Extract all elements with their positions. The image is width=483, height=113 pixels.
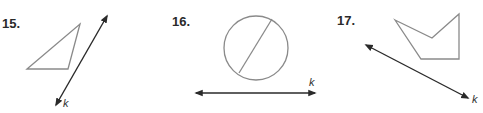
circle-chord bbox=[239, 19, 272, 73]
triangle-figure bbox=[27, 24, 80, 69]
line-label-k-16: k bbox=[309, 76, 315, 88]
line-label-k-15: k bbox=[63, 97, 69, 109]
figures-canvas bbox=[0, 0, 483, 113]
concave-pentagon-figure bbox=[395, 14, 459, 59]
line-k-15 bbox=[56, 16, 107, 105]
line-label-k-17: k bbox=[472, 93, 478, 105]
circle-figure bbox=[224, 16, 288, 80]
